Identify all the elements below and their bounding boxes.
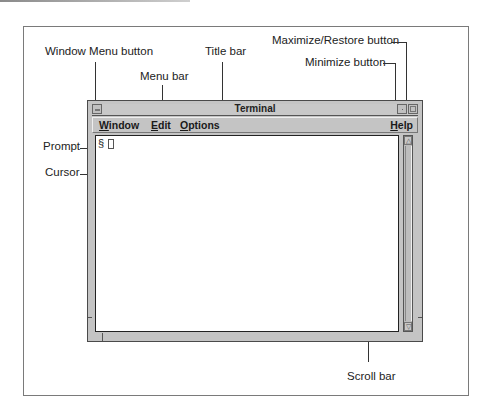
callout-title-bar: Title bar [205, 45, 246, 57]
callout-maximize-restore-button: Maximize/Restore button [272, 34, 399, 46]
callout-cursor: Cursor [45, 166, 80, 178]
scroll-track[interactable] [405, 146, 412, 321]
minimize-button[interactable] [397, 104, 407, 114]
resize-handle-bottom-left[interactable] [102, 333, 103, 341]
menu-bar: Window Edit Options Help [92, 117, 418, 133]
menu-window[interactable]: Window [99, 119, 139, 131]
callout-minimize-button: Minimize button [305, 56, 386, 68]
resize-handle-left[interactable] [88, 317, 92, 318]
menu-help[interactable]: Help [390, 119, 413, 131]
scroll-down-arrow-icon[interactable]: ▽ [404, 322, 412, 331]
callout-menu-bar: Menu bar [140, 70, 189, 82]
scroll-up-arrow-icon[interactable]: △ [404, 136, 412, 145]
callout-window-menu-button: Window Menu button [45, 45, 153, 57]
terminal-text-area[interactable]: § [95, 135, 399, 332]
menu-options[interactable]: Options [180, 119, 220, 131]
leader-maximize-v [406, 42, 407, 109]
window-title: Terminal [92, 103, 418, 114]
prompt: § [98, 137, 104, 149]
cursor [108, 139, 114, 149]
maximize-restore-button[interactable] [408, 104, 418, 114]
leader-maximize-h [391, 42, 406, 43]
title-bar[interactable]: Terminal [92, 104, 418, 116]
callout-scroll-bar: Scroll bar [347, 370, 396, 382]
scroll-bar[interactable]: △ ▽ [403, 135, 413, 332]
callout-prompt: Prompt [43, 140, 80, 152]
leader-minimize-h [383, 63, 395, 64]
page-edge-line [0, 0, 190, 2]
resize-handle-right[interactable] [418, 317, 422, 318]
terminal-window: Terminal Window Edit Options Help § △ ▽ [87, 100, 423, 342]
menu-edit[interactable]: Edit [151, 119, 171, 131]
